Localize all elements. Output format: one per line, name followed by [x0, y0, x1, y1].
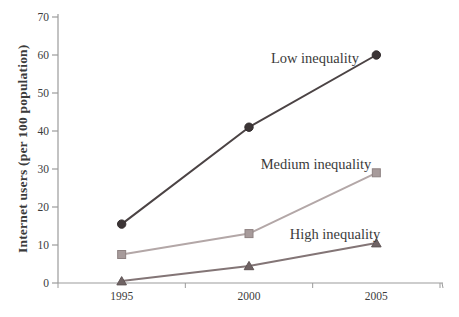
series-line-low-inequality	[122, 55, 377, 224]
chart-figure: 010203040506070199520002005 Low inequali…	[0, 0, 459, 317]
series-label-low-inequality: Low inequality	[271, 50, 360, 66]
series-labels: Low inequalityMedium inequalityHigh ineq…	[261, 50, 381, 242]
y-tick-label: 70	[38, 11, 50, 23]
y-tick-label: 60	[38, 49, 50, 61]
x-axis-end-tick	[442, 283, 443, 288]
y-tick-label: 30	[38, 163, 50, 175]
series-line-medium-inequality	[122, 173, 377, 255]
marker-square-medium-inequality	[245, 230, 253, 238]
series-label-high-inequality: High inequality	[290, 226, 381, 242]
y-tick-label: 20	[38, 201, 50, 213]
marker-square-medium-inequality	[372, 169, 380, 177]
marker-circle-low-inequality	[372, 51, 380, 59]
marker-circle-low-inequality	[117, 220, 125, 228]
marker-circle-low-inequality	[245, 123, 253, 131]
x-tick-label: 1995	[110, 290, 133, 302]
x-tick-label: 2005	[365, 290, 388, 302]
y-tick-label: 0	[43, 277, 49, 289]
y-tick-label: 10	[38, 239, 50, 251]
x-tick-label: 2000	[238, 290, 261, 302]
series-label-medium-inequality: Medium inequality	[261, 156, 372, 172]
y-tick-label: 50	[38, 87, 50, 99]
axes: 010203040506070199520002005	[38, 11, 444, 302]
y-tick-label: 40	[38, 125, 50, 137]
y-axis-title: Internet users (per 100 population)	[15, 53, 31, 253]
line-chart: 010203040506070199520002005 Low inequali…	[0, 0, 459, 317]
marker-square-medium-inequality	[118, 251, 126, 259]
